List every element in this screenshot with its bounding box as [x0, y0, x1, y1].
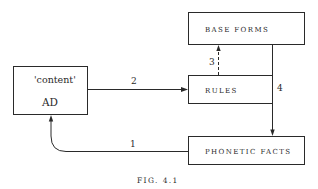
edge-2-arrow: 2: [88, 76, 189, 92]
edge-1-label: 1: [130, 139, 136, 149]
edge-4-arrow: 4: [270, 45, 283, 137]
edge-2-label: 2: [131, 76, 137, 86]
phonetic-facts-node: PHONETIC FACTS: [189, 137, 305, 165]
content-ad-node: 'content' AD: [14, 67, 88, 115]
diagram-canvas: BASE FORMS RULES 'content' AD PHONETIC F…: [0, 0, 318, 189]
rules-node: RULES: [189, 76, 273, 104]
arrowhead-icon: [216, 45, 220, 51]
base-forms-label: BASE FORMS: [205, 26, 269, 34]
edge-4-label: 4: [277, 83, 283, 93]
content-label: 'content': [34, 74, 76, 85]
base-forms-node: BASE FORMS: [189, 13, 305, 45]
arrowhead-icon: [270, 130, 274, 137]
edge-1-arrow: 1: [49, 115, 189, 152]
arrowhead-icon: [49, 115, 53, 122]
rules-label: RULES: [205, 87, 238, 95]
phonetic-facts-label: PHONETIC FACTS: [205, 148, 292, 156]
figure-caption: FIG. 4.1: [137, 176, 179, 185]
arrowhead-icon: [181, 87, 188, 92]
edge-3-label: 3: [209, 57, 215, 67]
ad-label: AD: [41, 96, 58, 108]
edge-3-arrow: 3: [209, 45, 221, 75]
